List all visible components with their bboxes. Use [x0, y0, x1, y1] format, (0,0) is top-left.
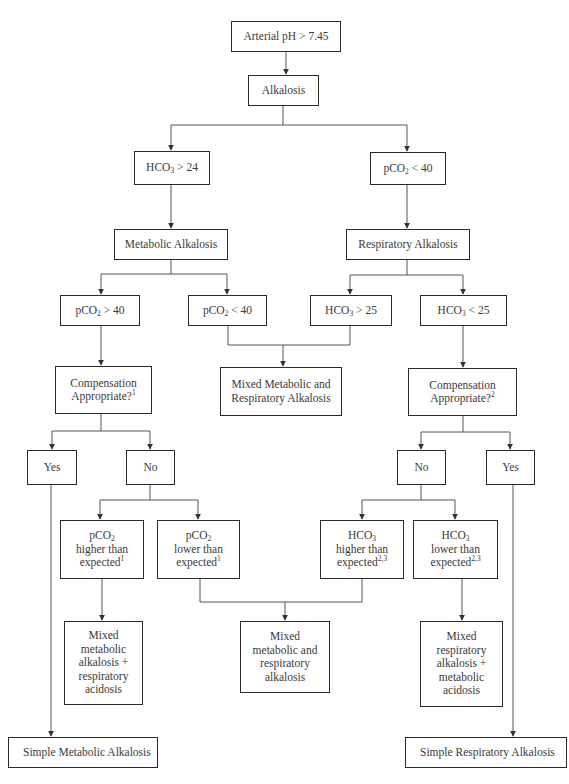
node-hco3-gt-25: HCO3 > 25 [310, 295, 392, 326]
node-mixed-metabolic-and-respiratory-alkalosis: Mixed metabolic and respiratory alkalosi… [240, 621, 330, 693]
node-alkalosis: Alkalosis [248, 75, 319, 106]
node-mixed-metabolic-respiratory-alkalosis: Mixed Metabolic and Respiratory Alkalosi… [220, 367, 342, 416]
node-yes-right: Yes [486, 450, 535, 485]
node-compensation-right: Compensation Appropriate?2 [408, 368, 517, 416]
node-no-left: No [126, 450, 175, 485]
node-pco2-gt-40: pCO2 > 40 [60, 295, 140, 326]
node-hco3-lt-25: HCO3 < 25 [420, 295, 507, 326]
node-pco2-lt-40-top: pCO2 < 40 [370, 152, 446, 185]
node-yes-left: Yes [27, 450, 77, 485]
node-hco3-lower-than-expected: HCO3 lower than expected2,3 [413, 520, 498, 579]
node-simple-metabolic-alkalosis: Simple Metabolic Alkalosis [8, 737, 158, 768]
node-pco2-higher-than-expected: pCO2 higher than expected1 [60, 520, 144, 579]
node-hco3-gt-24: HCO3 > 24 [134, 151, 210, 185]
node-arterial-ph: Arterial pH > 7.45 [231, 21, 341, 52]
alkalosis-flowchart: Arterial pH > 7.45 Alkalosis HCO3 > 24 p… [0, 0, 569, 784]
node-pco2-lower-than-expected: pCO2 lower than expected1 [157, 520, 240, 579]
node-respiratory-alkalosis: Respiratory Alkalosis [346, 229, 470, 260]
node-simple-respiratory-alkalosis: Simple Respiratory Alkalosis [405, 737, 567, 768]
node-hco3-higher-than-expected: HCO3 higher than expected2,3 [320, 520, 404, 579]
node-mixed-metabolic-alkalosis-respiratory-acidosis: Mixed metabolic alkalosis + respiratory … [64, 621, 143, 705]
node-mixed-respiratory-alkalosis-metabolic-acidosis: Mixed respiratory alkalosis + metabolic … [420, 621, 503, 707]
node-compensation-left: Compensation Appropriate?1 [55, 366, 152, 414]
node-metabolic-alkalosis: Metabolic Alkalosis [114, 229, 228, 260]
node-pco2-lt-40: pCO2 < 40 [188, 295, 267, 326]
node-no-right: No [397, 450, 446, 485]
